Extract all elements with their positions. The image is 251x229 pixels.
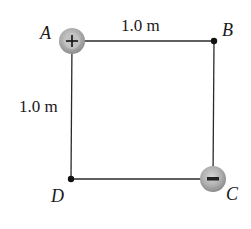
side-da bbox=[71, 41, 72, 179]
corner-dot-b bbox=[211, 38, 217, 44]
positive-charge-icon bbox=[59, 28, 85, 54]
point-label-d: D bbox=[51, 187, 64, 205]
point-label-c: C bbox=[226, 185, 238, 203]
dimension-label-top: 1.0 m bbox=[121, 17, 160, 34]
side-bc bbox=[213, 41, 214, 179]
dimension-label-left: 1.0 m bbox=[19, 98, 58, 115]
square-charge-diagram: A B C D 1.0 m 1.0 m bbox=[0, 0, 251, 229]
point-label-a: A bbox=[40, 24, 51, 42]
corner-dot-d bbox=[68, 176, 74, 182]
point-label-b: B bbox=[222, 21, 233, 39]
negative-charge-icon bbox=[200, 166, 226, 192]
